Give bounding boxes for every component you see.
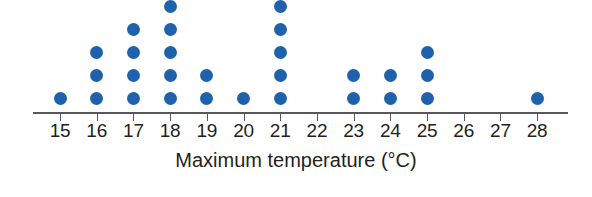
x-axis-tick-label-28: 28 [517,120,557,142]
x-axis-tick-label-27: 27 [480,120,520,142]
x-axis-line [33,112,568,114]
x-axis-tick-label-25: 25 [407,120,447,142]
x-axis-tick-label-16: 16 [77,120,117,142]
data-dot [90,92,103,105]
data-dot [237,92,250,105]
data-dot [421,46,434,59]
data-dot [274,46,287,59]
x-axis-tick-label-19: 19 [187,120,227,142]
data-dot [347,69,360,82]
x-axis-tick-label-17: 17 [113,120,153,142]
data-dot [421,69,434,82]
data-dot [90,46,103,59]
data-dot [274,92,287,105]
data-dot [90,69,103,82]
data-dot [274,69,287,82]
data-dot [274,0,287,13]
x-axis-tick-label-18: 18 [150,120,190,142]
x-axis-title: Maximum temperature (°C) [0,147,592,173]
x-axis-tick-label-26: 26 [444,120,484,142]
x-axis-tick-label-20: 20 [224,120,264,142]
data-dot [164,0,177,13]
data-dot [347,92,360,105]
data-dot [164,92,177,105]
dot-plot-chart: 1516171819202122232425262728 Maximum tem… [0,0,592,197]
data-dot [127,69,140,82]
x-axis-tick-label-24: 24 [370,120,410,142]
data-dot [164,46,177,59]
x-axis-tick-label-21: 21 [260,120,300,142]
data-dot [200,92,213,105]
data-dot [384,69,397,82]
x-axis-tick-label-23: 23 [334,120,374,142]
data-dot [200,69,213,82]
data-dot [127,92,140,105]
x-axis-tick-label-22: 22 [297,120,337,142]
data-dot [54,92,67,105]
data-dot [421,92,434,105]
data-dot [127,23,140,36]
data-dot [531,92,544,105]
data-dot [127,46,140,59]
data-dot [164,23,177,36]
data-dot [164,69,177,82]
data-dot [384,92,397,105]
x-axis-tick-label-15: 15 [40,120,80,142]
data-dot [274,23,287,36]
